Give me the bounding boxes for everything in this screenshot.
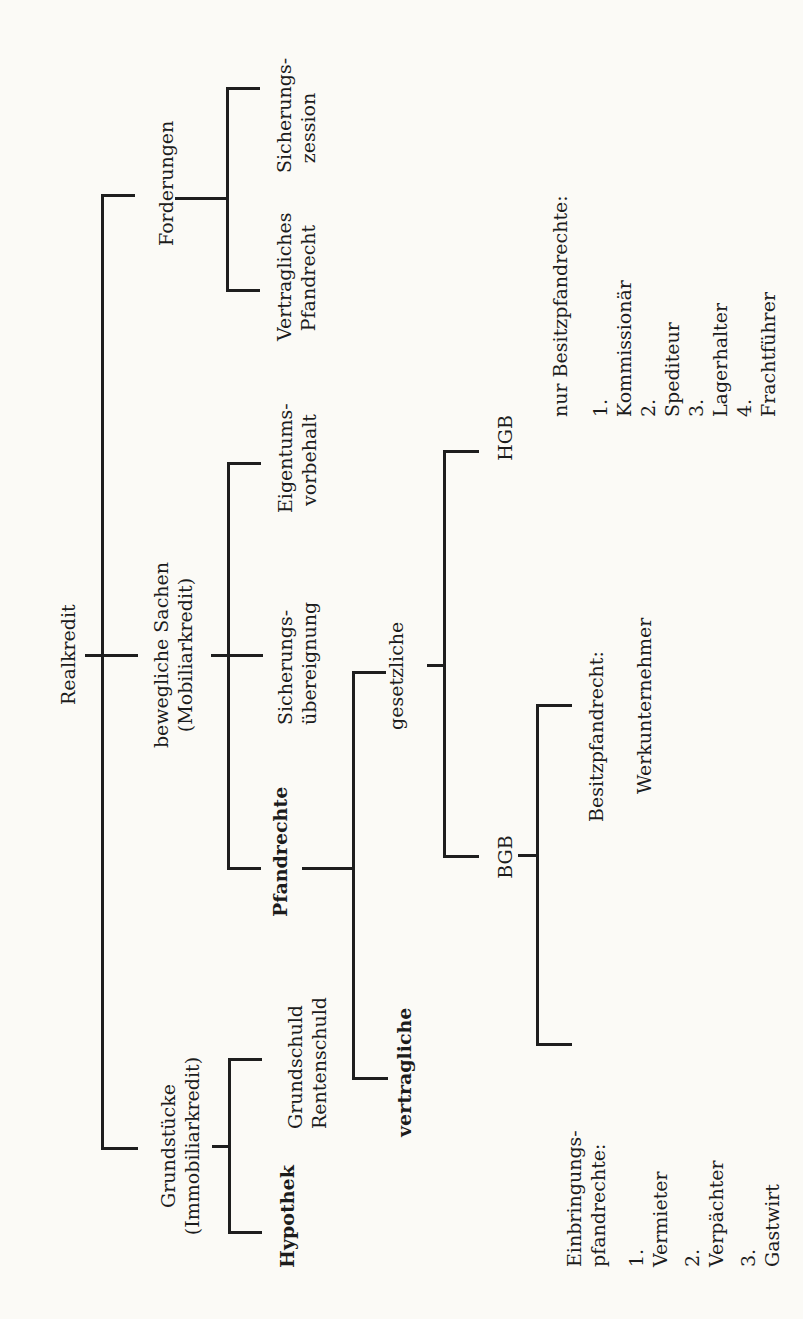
item-text: Vermieter [648,1117,672,1267]
node-grundstuecke: Grundstücke (Immobiliarkredit) [156,1046,204,1246]
list-heading: nur Besitzpfandrechte: [548,157,572,417]
list-item: 2.Verpächter [680,1117,728,1267]
forderungen-bracket [226,87,229,291]
label-line1: Grundschuld [283,1011,307,1129]
label-line1: Besitzpfandrecht: [584,622,608,822]
label-line2: (Mobiliarkredit) [173,555,197,755]
item-number: 2. [680,1241,704,1267]
item-number: 3. [736,1241,760,1267]
label-line1: Grundstücke [156,1046,180,1246]
list-item: 3.Gastwirt [736,1117,784,1267]
item-text: Kommissionär [612,157,636,417]
tick-eigentumsvorbehalt [227,462,261,465]
list-item: 2.Spediteur [636,157,684,417]
label-text: BGB [493,827,517,887]
node-grundschuld-rentenschuld: Grundschuld Rentenschuld [283,1011,331,1129]
node-hgb: HGB [493,408,517,468]
grundstuecke-bracket [228,1058,231,1234]
list-item: 1.Vermieter [624,1117,672,1267]
node-hypothek: Hypothek [275,1168,299,1268]
node-gesetzliche: gesetzliche [384,630,408,730]
tick-bewegliche [101,654,138,657]
label-text: Forderungen [154,146,178,246]
label-line2: Pfandrecht [296,215,320,341]
label-text: Pfandrechte [268,817,292,917]
tick-grundschuld [228,1058,262,1061]
node-sicherungszession: Sicherungs- zession [272,83,320,173]
label-line1: Sicherungs- [273,619,297,725]
node-sicherungsuebereignung: Sicherungs- übereignung [273,619,321,725]
label-line2: pfandrechte: [586,1117,610,1267]
node-vertragliches-pfandrecht: Vertragliches Pfandrecht [272,215,320,341]
tick-pfandrechte [227,867,261,870]
tick-bgb [443,855,479,858]
bewegliche-bracket [227,462,230,870]
item-number: 4. [732,391,756,417]
item-number: 3. [684,391,708,417]
forderungen-connector [175,197,229,200]
item-number: 1. [588,391,612,417]
tick-hgb [443,450,479,453]
bgb-bracket [536,704,539,1046]
tick-sicherungszession [226,87,260,90]
node-realkredit: Realkredit [56,605,80,705]
node-pfandrechte: Pfandrechte [268,817,292,917]
label-text: gesetzliche [384,630,408,730]
label-line2: Rentenschuld [307,1011,331,1129]
label-line2: zession [296,83,320,173]
label-line2: übereignung [297,619,321,725]
tick-hypothek [228,1231,262,1234]
item-number: 1. [624,1241,648,1267]
label-line1: Einbringungs- [562,1117,586,1267]
tick-forderungen [101,194,135,197]
label-line1: Vertragliches [272,215,296,341]
node-eigentumsvorbehalt: Eigentums- vorbehalt [273,407,321,513]
node-forderungen: Forderungen [154,146,178,246]
label-text: HGB [493,408,517,468]
list-item: 1.Kommissionär [588,157,636,417]
tick-vertragliches-pfandrecht [226,289,260,292]
list-item: 4.Frachtführer [732,157,780,417]
node-bewegliche-sachen: bewegliche Sachen (Mobiliarkredit) [149,555,197,755]
label-line2: vorbehalt [297,407,321,513]
label-text: Hypothek [275,1168,299,1268]
tick-gesetzliche [352,671,386,674]
item-text: Lagerhalter [708,157,732,417]
trunk-line [101,195,104,1150]
pfandrechte-bracket [352,671,355,1079]
list-item: 3.Lagerhalter [684,157,732,417]
label-text: vertragliche [392,1027,416,1137]
label-line1: Sicherungs- [272,83,296,173]
hgb-list: nur Besitzpfandrechte: 1.Kommissionär 2.… [548,157,692,417]
label-text: Realkredit [56,605,80,705]
bewegliche-connector [211,654,263,657]
bgb-connector [518,854,538,857]
node-vertragliche: vertragliche [392,1027,416,1137]
tick-grundstuecke [101,1147,138,1150]
node-besitzpfandrecht: Besitzpfandrecht: Werkunternehmer [584,622,656,822]
tick-einbringungspfandrechte [536,1043,572,1046]
node-bgb: BGB [493,827,517,887]
pfandrechte-connector [302,867,354,870]
gesetzliche-bracket [443,450,446,858]
label-line1: Eigentums- [273,407,297,513]
item-text: Spediteur [660,157,684,417]
item-text: Frachtführer [756,157,780,417]
node-einbringungspfandrechte: Einbringungs- pfandrechte: 1.Vermieter 2… [562,1117,752,1267]
label-line1: bewegliche Sachen [149,555,173,755]
item-number: 2. [636,391,660,417]
item-text: Verpächter [704,1117,728,1267]
label-line2: (Immobiliarkredit) [180,1046,204,1246]
item-text: Gastwirt [760,1117,784,1267]
tick-vertragliche [352,1077,388,1080]
label-line2: Werkunternehmer [632,622,656,822]
tick-besitzpfandrecht [536,704,572,707]
